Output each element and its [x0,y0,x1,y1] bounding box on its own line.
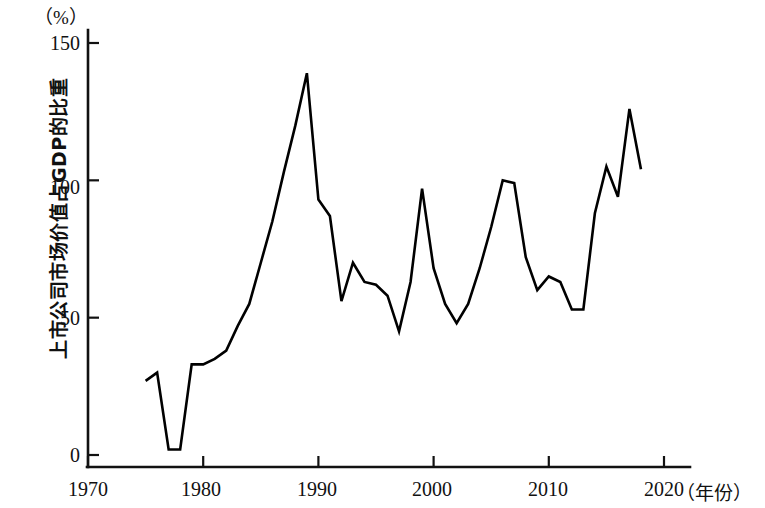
x-axis-ticks [88,456,664,467]
chart-plot-area [0,0,765,508]
axes-group [87,30,690,467]
chart-figure: （%） 上市公司市场价值占GDP的比重 150 100 50 0 1970 19… [0,0,765,508]
y-axis-ticks [88,43,99,455]
series-line-market-cap-gdp [146,73,641,449]
data-series-group [146,73,641,449]
